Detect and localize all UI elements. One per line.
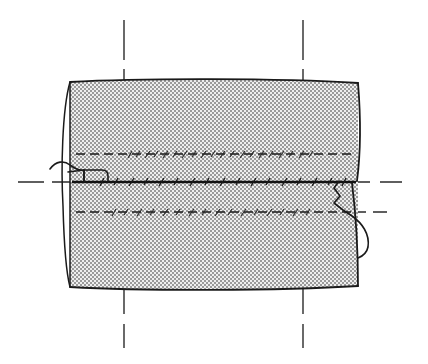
cylinder-body-fill bbox=[70, 79, 358, 290]
cylinder-body-group bbox=[62, 79, 360, 290]
technical-drawing-canvas bbox=[0, 0, 428, 364]
engineering-drawing-svg bbox=[0, 0, 428, 364]
